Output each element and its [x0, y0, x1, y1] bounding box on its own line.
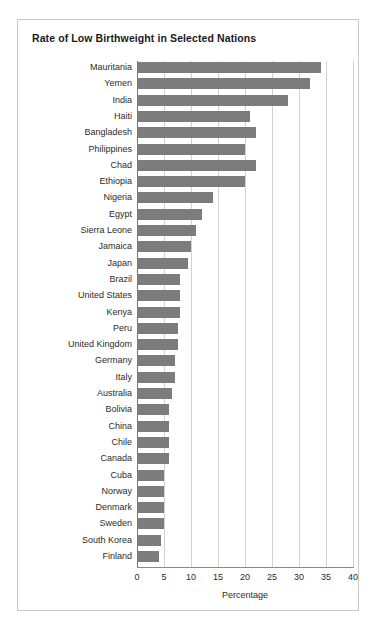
category-label: Japan — [107, 257, 132, 269]
bar-row: Egypt — [137, 208, 353, 224]
bar[interactable] — [137, 144, 245, 155]
x-tick-label: 30 — [294, 572, 304, 582]
bar-row: Finland — [137, 550, 353, 566]
bar-row: Japan — [137, 257, 353, 273]
bar[interactable] — [137, 290, 180, 301]
category-label: United Kingdom — [68, 338, 132, 350]
category-label: Nigeria — [103, 191, 132, 203]
bar[interactable] — [137, 176, 245, 187]
bar[interactable] — [137, 453, 169, 464]
category-label: Bolivia — [105, 403, 132, 415]
bar[interactable] — [137, 437, 169, 448]
category-label: India — [112, 94, 132, 106]
category-label: Peru — [113, 322, 132, 334]
bar-row: China — [137, 420, 353, 436]
bar-row: Jamaica — [137, 240, 353, 256]
category-label: United States — [78, 289, 132, 301]
category-label: Mauritania — [90, 61, 132, 73]
bar-row: Kenya — [137, 306, 353, 322]
bar-row: Australia — [137, 387, 353, 403]
category-label: Brazil — [109, 273, 132, 285]
bar-row: Cuba — [137, 469, 353, 485]
bar-row: Denmark — [137, 501, 353, 517]
bar-row: Norway — [137, 485, 353, 501]
bar-row: Bangladesh — [137, 126, 353, 142]
bar[interactable] — [137, 209, 202, 220]
category-label: Cuba — [110, 469, 132, 481]
category-label: Canada — [100, 452, 132, 464]
category-label: Jamaica — [98, 240, 132, 252]
category-label: Kenya — [106, 306, 132, 318]
bar-row: Ethiopia — [137, 175, 353, 191]
bar-row: Yemen — [137, 77, 353, 93]
bar[interactable] — [137, 160, 256, 171]
category-label: South Korea — [82, 534, 132, 546]
bar-row: Mauritania — [137, 61, 353, 77]
bar[interactable] — [137, 78, 310, 89]
bar-row: Chad — [137, 159, 353, 175]
bar-row: Sierra Leone — [137, 224, 353, 240]
bar[interactable] — [137, 241, 191, 252]
category-label: Ethiopia — [99, 175, 132, 187]
bar[interactable] — [137, 551, 159, 562]
x-tick-label: 10 — [186, 572, 196, 582]
bar-row: South Korea — [137, 534, 353, 550]
bar[interactable] — [137, 111, 250, 122]
bar-row: Brazil — [137, 273, 353, 289]
x-tick-label: 15 — [213, 572, 223, 582]
bar[interactable] — [137, 192, 213, 203]
category-label: Germany — [95, 354, 132, 366]
x-axis-line — [137, 567, 354, 568]
bar[interactable] — [137, 470, 164, 481]
category-label: Yemen — [104, 77, 132, 89]
bar[interactable] — [137, 307, 180, 318]
category-label: Australia — [97, 387, 132, 399]
bar[interactable] — [137, 502, 164, 513]
bar-row: Philippines — [137, 143, 353, 159]
x-tick-label: 0 — [134, 572, 139, 582]
category-label: China — [108, 420, 132, 432]
x-tick-label: 40 — [348, 572, 358, 582]
bar[interactable] — [137, 486, 164, 497]
bar-row: Haiti — [137, 110, 353, 126]
category-label: Chad — [110, 159, 132, 171]
bar[interactable] — [137, 62, 321, 73]
bar[interactable] — [137, 421, 169, 432]
bar[interactable] — [137, 339, 178, 350]
bar[interactable] — [137, 258, 188, 269]
category-label: Italy — [115, 371, 132, 383]
bar[interactable] — [137, 518, 164, 529]
category-label: Haiti — [114, 110, 132, 122]
x-tick-label: 20 — [240, 572, 250, 582]
category-label: Egypt — [109, 208, 132, 220]
bar[interactable] — [137, 355, 175, 366]
bar-row: Chile — [137, 436, 353, 452]
gridline — [353, 61, 354, 567]
bar[interactable] — [137, 323, 178, 334]
x-tick-label: 5 — [161, 572, 166, 582]
bar-row: United States — [137, 289, 353, 305]
bar-row: United Kingdom — [137, 338, 353, 354]
bar[interactable] — [137, 404, 169, 415]
bar[interactable] — [137, 127, 256, 138]
bar-row: Italy — [137, 371, 353, 387]
category-label: Chile — [111, 436, 132, 448]
category-label: Philippines — [88, 143, 132, 155]
bar[interactable] — [137, 95, 288, 106]
plot-area: MauritaniaYemenIndiaHaitiBangladeshPhili… — [137, 61, 353, 567]
bar-row: Bolivia — [137, 403, 353, 419]
bar-row: Nigeria — [137, 191, 353, 207]
category-label: Norway — [101, 485, 132, 497]
category-label: Sweden — [99, 517, 132, 529]
x-axis-label: Percentage — [137, 590, 353, 600]
category-label: Finland — [102, 550, 132, 562]
bar[interactable] — [137, 535, 161, 546]
bar-row: Germany — [137, 354, 353, 370]
bar-row: Sweden — [137, 517, 353, 533]
bar-row: Peru — [137, 322, 353, 338]
bar[interactable] — [137, 274, 180, 285]
bar[interactable] — [137, 225, 196, 236]
bar[interactable] — [137, 372, 175, 383]
category-label: Bangladesh — [84, 126, 132, 138]
bar[interactable] — [137, 388, 172, 399]
